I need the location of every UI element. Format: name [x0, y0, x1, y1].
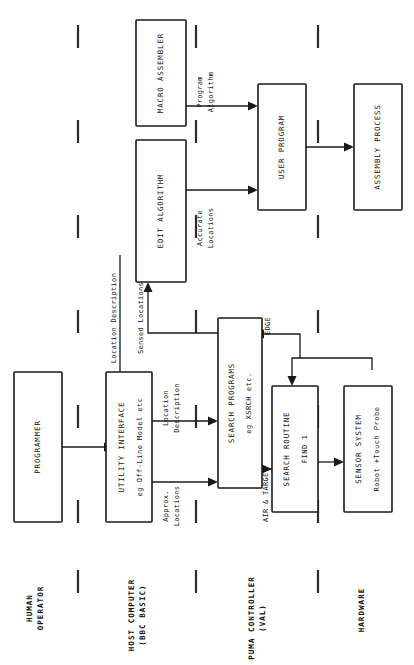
swimlane-caption-puma-controller: PUMA CONTROLLER (VAL) — [247, 576, 267, 660]
swimlane-caption-human-operator: HUMAN OPERATOR — [25, 586, 45, 631]
swimlane-caption-puma-line1: PUMA CONTROLLER — [247, 576, 256, 660]
box-sensor-system-label: SENSOR SYSTEM — [354, 414, 363, 484]
edge-label-accurate: Accurate — [196, 210, 204, 246]
swimlane-caption-puma-line2: (VAL) — [258, 604, 267, 632]
swimlane-caption-human-line2: OPERATOR — [36, 586, 45, 631]
edge-label-location-description-long: Location Description — [110, 273, 118, 363]
connector-searchroutine-to-sensor — [318, 458, 344, 467]
box-search-routine-sublabel: FIND 1 — [301, 435, 309, 463]
connector-utility-to-searchprograms-approx — [152, 478, 218, 487]
box-search-programs[interactable]: SEARCH PROGRAMS eg XSRCH etc. — [218, 318, 262, 488]
box-search-programs-label: SEARCH PROGRAMS — [227, 363, 236, 443]
edge-label-air-target: AIR & TARGET — [262, 467, 270, 522]
box-user-program-label: USER PROGRAM — [277, 115, 286, 179]
connector-sensor-feedback-to-searchroutine — [288, 358, 373, 386]
box-search-programs-sublabel: eg XSRCH etc. — [245, 372, 253, 433]
box-macro-assembler-label: MACRO ASSEMBLER — [156, 33, 165, 113]
swimlane-caption-hardware: HARDWARE — [357, 588, 366, 633]
box-edit-algorithm[interactable]: EDIT ALGORITHM — [136, 140, 186, 282]
box-assembly-process-label: ASSEMBLY PROCESS — [373, 104, 382, 190]
edge-label-description: Description — [173, 383, 181, 433]
swimlane-caption-host-computer: HOST COMPUTER (BBC BASIC) — [127, 579, 147, 651]
edge-label-program: Program — [196, 76, 204, 108]
swimlane-caption-host-line2: (BBC BASIC) — [138, 584, 147, 645]
edge-label-algorithm: Algorithm — [207, 72, 215, 113]
box-search-routine-label: SEARCH ROUTINE — [282, 412, 291, 487]
box-assembly-process[interactable]: ASSEMBLY PROCESS — [354, 84, 402, 210]
connector-edit-to-user-accurate — [186, 186, 258, 195]
box-sensor-system[interactable]: SENSOR SYSTEM Robot +Touch Probe — [344, 386, 392, 512]
edge-label-edge: EDGE — [264, 317, 272, 335]
edge-label-accurate-locations: Locations — [207, 208, 215, 249]
box-search-routine[interactable]: SEARCH ROUTINE FIND 1 — [272, 386, 318, 512]
box-utility-interface-label: UTILITY INTERFACE — [117, 402, 126, 493]
swimlane-caption-hardware-line1: HARDWARE — [357, 588, 366, 633]
swimlane-caption-host-line1: HOST COMPUTER — [127, 579, 136, 651]
box-sensor-system-sublabel: Robot +Touch Probe — [373, 407, 381, 492]
box-macro-assembler[interactable]: MACRO ASSEMBLER — [136, 20, 186, 126]
connector-user-to-assembly — [306, 143, 354, 152]
box-programmer[interactable]: PROGRAMMER — [14, 372, 62, 522]
edge-label-location: Location — [162, 390, 170, 426]
swimlane-caption-human-line1: HUMAN — [25, 594, 34, 622]
box-utility-interface[interactable]: UTILITY INTERFACE eg Off-Line Model etc — [106, 372, 152, 522]
box-edit-algorithm-label: EDIT ALGORITHM — [156, 174, 165, 249]
connector-searchprograms-to-edit-sensed — [144, 282, 219, 333]
box-user-program[interactable]: USER PROGRAM — [258, 84, 306, 210]
box-programmer-label: PROGRAMMER — [33, 420, 42, 474]
edge-label-approx: Approx. — [162, 490, 170, 522]
box-utility-interface-sublabel: eg Off-Line Model etc — [136, 397, 144, 496]
edge-label-sensed-locations: Sensed Locations — [137, 282, 145, 354]
edge-label-locations: Locations — [173, 486, 181, 527]
diagram-canvas: PROGRAMMER UTILITY INTERFACE eg Off-Line… — [0, 0, 414, 665]
diagram-svg: PROGRAMMER UTILITY INTERFACE eg Off-Line… — [0, 0, 414, 665]
